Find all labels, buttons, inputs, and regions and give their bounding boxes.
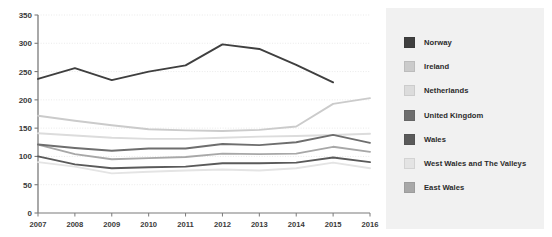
legend-item-label: Wales <box>424 135 446 144</box>
legend-item[interactable]: Netherlands <box>404 79 540 103</box>
legend-item-label: Ireland <box>424 62 449 71</box>
x-axis-tick-label: 2013 <box>251 220 268 229</box>
legend-color-swatch <box>404 85 415 96</box>
legend-item-label: East Wales <box>424 183 464 192</box>
x-axis-tick-label: 2009 <box>103 220 120 229</box>
legend-item-label: Norway <box>424 38 452 47</box>
x-axis-tick-label: 2015 <box>325 220 343 229</box>
legend-color-swatch <box>404 134 415 145</box>
legend-item[interactable]: West Wales and The Valleys <box>404 151 540 175</box>
legend-item[interactable]: Wales <box>404 127 540 151</box>
x-axis-tick-label: 2014 <box>288 220 306 229</box>
y-axis-tick-label: 50 <box>23 181 32 190</box>
legend-item-list: NorwayIrelandNetherlandsUnited KingdomWa… <box>404 30 540 200</box>
legend-item[interactable]: Ireland <box>404 54 540 78</box>
series-line <box>38 98 370 131</box>
x-axis-tick-label: 2007 <box>30 220 47 229</box>
series-line <box>38 44 333 82</box>
x-axis-tick-label: 2016 <box>362 220 379 229</box>
chart-svg: 0501001502002503003502007200820092010201… <box>0 0 386 237</box>
legend-color-swatch <box>404 37 415 48</box>
x-axis-tick-label: 2008 <box>66 220 83 229</box>
y-axis-tick-label: 300 <box>19 39 33 48</box>
x-axis-tick-label: 2012 <box>214 220 231 229</box>
y-axis-tick-label: 200 <box>19 96 33 105</box>
y-axis-tick-label: 0 <box>28 209 33 218</box>
legend-color-swatch <box>404 61 415 72</box>
legend-item[interactable]: East Wales <box>404 176 540 200</box>
chart-legend: NorwayIrelandNetherlandsUnited KingdomWa… <box>386 8 544 229</box>
series-line <box>38 162 370 173</box>
legend-item-label: United Kingdom <box>424 111 483 120</box>
legend-item-label: Netherlands <box>424 86 468 95</box>
legend-item[interactable]: United Kingdom <box>404 103 540 127</box>
chart-screenshot: 0501001502002503003502007200820092010201… <box>0 0 552 237</box>
x-axis-tick-label: 2010 <box>140 220 157 229</box>
series-line <box>38 156 370 168</box>
legend-item-label: West Wales and The Valleys <box>424 159 526 168</box>
y-axis-tick-label: 250 <box>19 68 33 77</box>
legend-color-swatch <box>404 158 415 169</box>
legend-item[interactable]: Norway <box>404 30 540 54</box>
y-axis-tick-label: 150 <box>19 124 33 133</box>
line-chart-plot: 0501001502002503003502007200820092010201… <box>0 0 386 237</box>
legend-color-swatch <box>404 110 415 121</box>
y-axis-tick-label: 100 <box>19 152 33 161</box>
x-axis-tick-label: 2011 <box>177 220 194 229</box>
y-axis-tick-label: 350 <box>19 11 33 20</box>
legend-color-swatch <box>404 182 415 193</box>
